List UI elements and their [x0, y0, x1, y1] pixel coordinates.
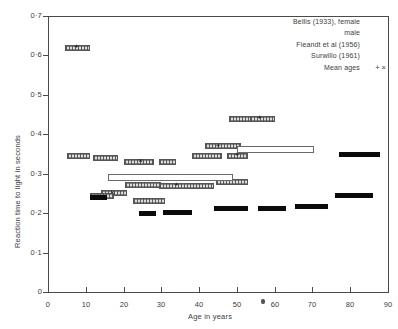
x-axis-tick — [86, 287, 87, 293]
y-axis-tick — [43, 253, 49, 254]
y-axis-tick-label: 0·3 — [4, 169, 42, 178]
y-axis-tick — [43, 134, 49, 135]
x-axis-tick-label: 0 — [36, 300, 60, 309]
x-axis-tick — [388, 287, 389, 293]
legend-item-label: male — [344, 29, 360, 36]
y-axis-tick-label: 0·2 — [4, 208, 42, 217]
y-axis-tick-label: 0·1 — [4, 248, 42, 257]
y-axis-tick — [43, 55, 49, 56]
data-bar — [227, 153, 248, 159]
data-bar — [125, 182, 161, 188]
x-axis-tick-label: 10 — [74, 300, 98, 309]
y-axis-tick-label: 0·5 — [4, 90, 42, 99]
x-axis-tick-label: 70 — [300, 300, 324, 309]
data-bar — [258, 206, 286, 211]
x-axis-tick — [48, 287, 49, 293]
y-axis-tick-label: 0·6 — [4, 50, 42, 59]
legend-swatch-solid-black-box — [368, 42, 384, 48]
plot-frame-right — [388, 16, 389, 292]
data-bar — [339, 152, 381, 157]
data-bar — [205, 143, 241, 149]
legend: Bellis (1933), femalemaleFieandt et al (… — [200, 18, 386, 74]
x-axis-tick-label: 90 — [376, 300, 398, 309]
legend-mean-ages-symbols: + × — [375, 63, 386, 72]
y-axis-tick-label: 0·4 — [4, 129, 42, 138]
y-axis-tick — [43, 16, 49, 17]
x-axis-tick-label: 40 — [187, 300, 211, 309]
data-bar — [124, 159, 154, 165]
x-axis-tick — [312, 287, 313, 293]
y-axis-tick — [43, 174, 49, 175]
scan-artifact-smudge — [261, 299, 265, 304]
y-axis-line — [48, 16, 49, 292]
legend-item: Surwillo (1961) — [200, 52, 386, 61]
legend-item: Mean ages+ × — [200, 64, 386, 73]
x-axis-tick — [199, 287, 200, 293]
data-bar — [67, 153, 90, 159]
legend-item-label: Bellis (1933), female — [293, 18, 360, 25]
legend-item: Fieandt et al (1956) — [200, 41, 386, 50]
data-bar — [159, 159, 176, 165]
data-bar — [90, 195, 107, 200]
x-axis-tick — [350, 287, 351, 293]
x-axis-tick — [161, 287, 162, 293]
legend-item-label: Mean ages — [324, 64, 360, 71]
x-axis-tick-label: 80 — [338, 300, 362, 309]
x-axis-tick — [124, 287, 125, 293]
x-axis-title: Age in years — [188, 312, 232, 321]
data-bar — [139, 211, 156, 216]
y-axis-tick-label: 0·7 — [4, 11, 42, 20]
legend-item: male — [200, 29, 386, 38]
legend-item-label: Fieandt et al (1956) — [296, 41, 360, 48]
data-bar — [214, 206, 248, 211]
data-bar — [93, 155, 118, 161]
legend-swatch-open-box — [368, 53, 384, 59]
data-bar — [163, 210, 191, 215]
y-axis-tick — [43, 95, 49, 96]
x-axis-tick-label: 30 — [149, 300, 173, 309]
data-bar — [108, 174, 233, 181]
x-axis-line — [48, 292, 388, 293]
y-axis-tick — [43, 213, 49, 214]
y-axis-tick-label: 0 — [4, 287, 42, 296]
y-axis-title: Reaction time to light in seconds — [13, 135, 22, 248]
data-bar — [192, 153, 222, 159]
legend-swatch-hatched-box — [368, 30, 384, 36]
x-axis-tick-label: 50 — [225, 300, 249, 309]
x-axis-tick — [275, 287, 276, 293]
x-axis-tick-label: 60 — [263, 300, 287, 309]
x-axis-tick — [237, 287, 238, 293]
data-bar — [250, 116, 275, 122]
data-bar — [65, 45, 90, 51]
plot-frame-top — [48, 16, 389, 17]
data-bar — [335, 193, 373, 198]
reaction-time-vs-age-chart: 00·10·20·30·40·50·60·7 01020304050607080… — [0, 0, 398, 329]
x-axis-tick-label: 20 — [112, 300, 136, 309]
legend-swatch-hatched-box — [368, 19, 384, 25]
data-bar — [237, 146, 314, 153]
data-bar — [133, 198, 165, 204]
legend-item-label: Surwillo (1961) — [311, 52, 360, 59]
data-bar — [159, 183, 214, 189]
data-bar — [295, 204, 327, 209]
legend-item: Bellis (1933), female — [200, 18, 386, 27]
